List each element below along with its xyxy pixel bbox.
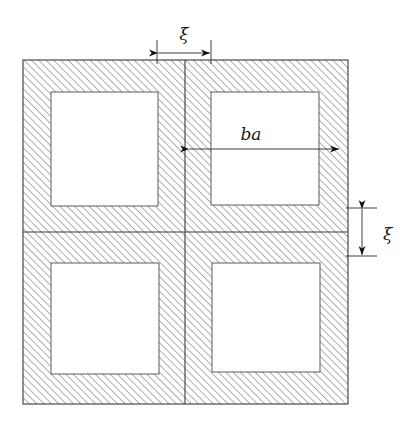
- ba-label: ba: [240, 124, 261, 144]
- top-right-hole: [211, 92, 319, 205]
- bottom-left-hole: [51, 263, 159, 374]
- bottom-right-hole: [212, 263, 320, 372]
- top-left-hole: [51, 92, 158, 206]
- figure-container: ξ ba ξ: [0, 0, 409, 427]
- perforated-plate-diagram: ξ ba ξ: [0, 0, 409, 427]
- xi-right-label: ξ: [383, 224, 394, 244]
- xi-top-label: ξ: [179, 24, 190, 44]
- dimension-xi-right: ξ: [346, 208, 394, 256]
- dimension-xi-top: ξ: [157, 24, 211, 64]
